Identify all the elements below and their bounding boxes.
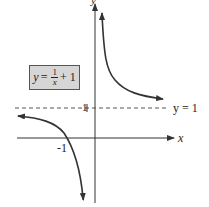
fraction-denominator: x bbox=[53, 78, 57, 87]
equation-label: y = 1 x + 1 bbox=[29, 65, 80, 90]
equation-equals: = bbox=[41, 70, 48, 85]
x-axis-label: x bbox=[178, 131, 183, 146]
right-branch-curve bbox=[102, 14, 163, 99]
y-axis-label: y bbox=[91, 0, 96, 6]
equation-fraction: 1 x bbox=[51, 68, 58, 87]
asymptote-label: y = 1 bbox=[173, 101, 198, 116]
y-tick-label-1: 1 bbox=[82, 101, 88, 113]
x-tick-label-neg1: -1 bbox=[57, 141, 67, 156]
equation-rest: + 1 bbox=[60, 70, 76, 85]
equation-lhs: y bbox=[33, 70, 38, 85]
left-branch-curve bbox=[18, 116, 83, 198]
